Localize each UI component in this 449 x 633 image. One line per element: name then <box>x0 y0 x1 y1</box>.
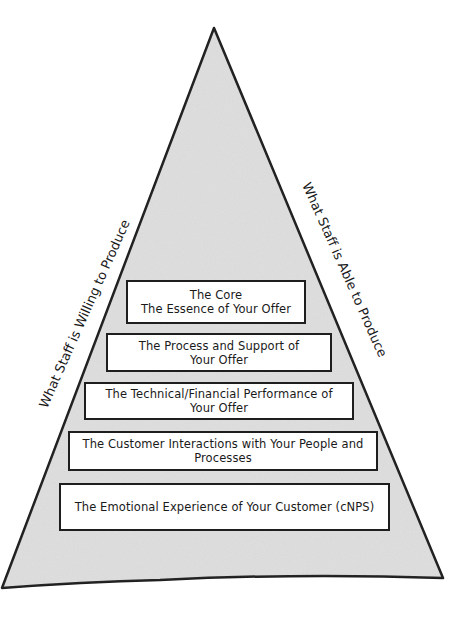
layer-process-line2: Your Offer <box>190 353 248 367</box>
layer-process-line1: The Process and Support of <box>139 339 299 353</box>
pyramid-layer-process-support: The Process and Support of Your Offer <box>106 333 332 372</box>
layer-technical-line2: Your Offer <box>190 401 248 415</box>
layer-interactions-line2: Processes <box>194 451 252 465</box>
layer-core-line1: The Core <box>190 288 242 302</box>
pyramid-layer-emotional-experience: The Emotional Experience of Your Custome… <box>59 483 390 531</box>
layer-interactions-line1: The Customer Interactions with Your Peop… <box>83 437 364 451</box>
layer-emotional-line1: The Emotional Experience of Your Custome… <box>75 500 375 514</box>
layer-core-line2: The Essence of Your Offer <box>141 302 291 316</box>
pyramid-layer-core: The Core The Essence of Your Offer <box>126 280 306 324</box>
layer-technical-line1: The Technical/Financial Performance of <box>105 387 332 401</box>
pyramid-layer-customer-interactions: The Customer Interactions with Your Peop… <box>68 431 378 471</box>
pyramid-layer-technical-financial: The Technical/Financial Performance of Y… <box>84 382 354 420</box>
